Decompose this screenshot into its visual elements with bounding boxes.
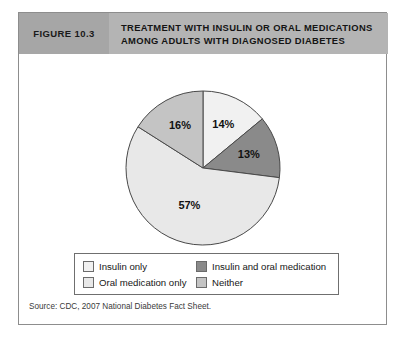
chart-legend: Insulin only Insulin and oral medication… bbox=[74, 253, 339, 295]
pie-chart: 14%13%57%16% bbox=[19, 54, 388, 254]
legend-item-insulin-only[interactable]: Insulin only bbox=[83, 261, 196, 272]
legend-swatch-icon-neither bbox=[196, 277, 207, 288]
figure-number-box: FIGURE 10.3 bbox=[19, 13, 109, 54]
pie-slice-label: 16% bbox=[169, 119, 191, 131]
figure-number-label: FIGURE 10.3 bbox=[33, 28, 94, 39]
pie-slices bbox=[126, 91, 280, 245]
legend-item-oral-only[interactable]: Oral medication only bbox=[83, 277, 196, 288]
legend-label-neither: Neither bbox=[212, 277, 243, 288]
pie-chart-svg: 14%13%57%16% bbox=[19, 54, 388, 254]
figure-title-line-1: TREATMENT WITH INSULIN OR ORAL MEDICATIO… bbox=[121, 21, 382, 34]
pie-slice-label: 57% bbox=[178, 199, 200, 211]
figure-frame: FIGURE 10.3 TREATMENT WITH INSULIN OR OR… bbox=[18, 12, 387, 325]
legend-swatch-icon-insulin-and-oral bbox=[196, 261, 207, 272]
chart-area: 14%13%57%16% bbox=[19, 54, 388, 254]
legend-label-insulin-only: Insulin only bbox=[99, 261, 147, 272]
figure-header: FIGURE 10.3 TREATMENT WITH INSULIN OR OR… bbox=[19, 13, 388, 54]
legend-swatch-icon-oral-only bbox=[83, 277, 94, 288]
legend-swatch-icon-insulin-only bbox=[83, 261, 94, 272]
figure-title-line-2: AMONG ADULTS WITH DIAGNOSED DIABETES bbox=[121, 34, 382, 47]
source-note: Source: CDC, 2007 National Diabetes Fact… bbox=[29, 302, 211, 311]
figure-title-box: TREATMENT WITH INSULIN OR ORAL MEDICATIO… bbox=[109, 13, 388, 54]
legend-item-neither[interactable]: Neither bbox=[196, 277, 332, 288]
legend-label-oral-only: Oral medication only bbox=[99, 277, 186, 288]
legend-item-insulin-and-oral[interactable]: Insulin and oral medication bbox=[196, 261, 332, 272]
pie-slice-label: 13% bbox=[238, 148, 260, 160]
legend-label-insulin-and-oral: Insulin and oral medication bbox=[212, 261, 326, 272]
pie-slice-label: 14% bbox=[212, 118, 234, 130]
